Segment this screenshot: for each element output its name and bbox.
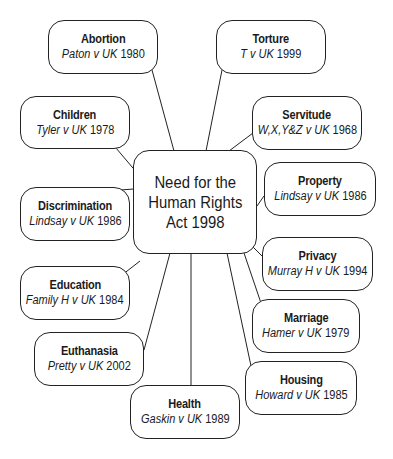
central-topic-text: Need for the Human Rights Act 1998 — [148, 172, 242, 232]
node-privacy: Privacy Murray H v UK 1994 — [262, 237, 373, 291]
node-title: Education — [49, 278, 101, 293]
node-education: Education Family H v UK 1984 — [20, 266, 130, 320]
node-title: Property — [298, 174, 342, 189]
node-case: Tyler v UK 1978 — [36, 123, 114, 138]
connector-privacy — [253, 247, 262, 256]
node-title: Torture — [253, 32, 289, 47]
node-title: Servitude — [283, 108, 332, 123]
node-abortion: Abortion Paton v UK 1980 — [48, 20, 158, 74]
node-case: Lindsay v UK 1986 — [274, 189, 366, 204]
node-title: Health — [169, 397, 202, 412]
node-case: Gaskin v UK 1989 — [141, 412, 230, 427]
connector-housing — [227, 253, 251, 366]
node-children: Children Tyler v UK 1978 — [20, 96, 130, 149]
connector-torture — [206, 70, 222, 151]
connector-abortion — [152, 70, 174, 151]
node-health: Health Gaskin v UK 1989 — [130, 385, 240, 439]
connector-euthanasia — [144, 253, 170, 350]
node-case: Hamer v UK 1979 — [262, 326, 349, 341]
node-title: Privacy — [299, 249, 337, 264]
node-case: Murray H v UK 1994 — [268, 264, 368, 279]
node-case: Family H v UK 1984 — [26, 293, 124, 308]
node-marriage: Marriage Hamer v UK 1979 — [252, 299, 360, 353]
node-torture: Torture T v UK 1999 — [216, 20, 326, 74]
node-title: Euthanasia — [61, 344, 118, 359]
node-case: Howard v UK 1985 — [255, 388, 347, 403]
node-title: Abortion — [81, 32, 125, 47]
node-case: T v UK 1999 — [240, 47, 301, 62]
node-title: Housing — [280, 373, 323, 388]
node-euthanasia: Euthanasia Pretty v UK 2002 — [34, 332, 144, 386]
node-servitude: Servitude W,X,Y&Z v UK 1968 — [252, 96, 362, 150]
node-property: Property Lindsay v UK 1986 — [264, 162, 376, 216]
node-case: Paton v UK 1980 — [61, 47, 144, 62]
connector-property — [257, 196, 264, 206]
connector-servitude — [229, 133, 253, 151]
connector-marriage — [244, 253, 262, 306]
node-title: Discrimination — [38, 199, 112, 214]
node-case: Pretty v UK 2002 — [47, 359, 130, 374]
node-case: W,X,Y&Z v UK 1968 — [257, 123, 356, 138]
central-topic-node: Need for the Human Rights Act 1998 — [133, 150, 257, 254]
node-title: Marriage — [284, 311, 328, 326]
node-title: Children — [53, 108, 96, 123]
node-case: Lindsay v UK 1986 — [29, 214, 121, 229]
node-housing: Housing Howard v UK 1985 — [245, 361, 357, 415]
node-discrimination: Discrimination Lindsay v UK 1986 — [20, 187, 130, 241]
